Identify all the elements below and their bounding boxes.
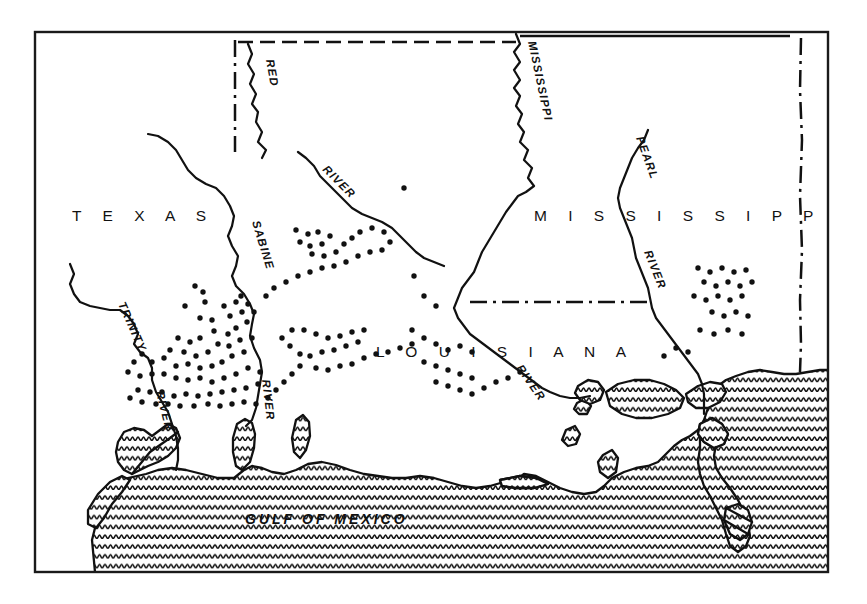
occurrence-dot — [737, 283, 742, 288]
occurrence-dot — [309, 251, 314, 256]
occurrence-dot — [703, 297, 708, 302]
red-river — [248, 44, 266, 158]
occurrence-dot — [243, 385, 248, 390]
occurrence-dot — [305, 231, 310, 236]
occurrence-dot — [173, 363, 178, 368]
occurrence-dot — [387, 239, 392, 244]
occurrence-dot — [182, 303, 187, 308]
calcasieu-lake-water — [292, 415, 310, 458]
occurrence-dot — [319, 265, 324, 270]
occurrence-dot — [325, 335, 330, 340]
occurrence-dot — [273, 387, 278, 392]
gulf-of-mexico-label: GULF OF MEXICO — [245, 511, 408, 527]
texas-label: T E X A S — [72, 207, 215, 224]
occurrence-dot — [255, 381, 260, 386]
occurrence-dot — [343, 343, 348, 348]
occurrence-dot — [333, 249, 338, 254]
occurrence-dot — [331, 263, 336, 268]
occurrence-dot — [202, 299, 207, 304]
occurrence-dot — [139, 399, 144, 404]
occurrence-dot — [297, 351, 302, 356]
occurrence-dot — [177, 403, 182, 408]
occurrence-dot — [221, 303, 226, 308]
sabine-river-label: SABINE — [250, 219, 276, 271]
sabine-river — [148, 134, 262, 426]
mississippi-label: M I S S I S S I P P I — [534, 207, 847, 224]
occurrence-dot — [289, 371, 294, 376]
occurrence-dot — [433, 341, 438, 346]
occurrence-dot — [349, 235, 354, 240]
occurrence-dot — [401, 185, 406, 190]
occurrence-dot — [739, 293, 744, 298]
occurrence-dot — [219, 389, 224, 394]
occurrence-dot — [411, 273, 416, 278]
occurrence-dot — [433, 379, 438, 384]
occurrence-dot — [241, 349, 246, 354]
occurrence-dot — [307, 243, 312, 248]
occurrence-dot — [409, 341, 414, 346]
occurrence-dot — [457, 371, 462, 376]
occurrence-dot — [707, 269, 712, 274]
occurrence-dot — [139, 351, 144, 356]
occurrence-dot — [287, 343, 292, 348]
occurrence-dot — [307, 269, 312, 274]
occurrence-dot — [337, 363, 342, 368]
occurrence-dot — [293, 227, 298, 232]
occurrence-dot — [731, 269, 736, 274]
occurrence-dot — [239, 309, 244, 314]
occurrence-dot — [244, 319, 249, 324]
occurrence-dot — [263, 293, 268, 298]
louisiana-label: L O U I S I A N A — [376, 343, 635, 360]
occurrence-dot — [715, 293, 720, 298]
occurrence-dot — [743, 267, 748, 272]
occurrence-dot — [385, 349, 390, 354]
occurrence-dot — [197, 315, 202, 320]
occurrence-dot — [421, 335, 426, 340]
occurrence-dot — [245, 301, 250, 306]
occurrence-dot — [373, 351, 378, 356]
occurrence-dot — [226, 343, 231, 348]
occurrence-dot — [433, 363, 438, 368]
occurrence-dot — [445, 383, 450, 388]
occurrence-dot — [733, 309, 738, 314]
occurrence-dot — [361, 355, 366, 360]
occurrence-dot — [225, 331, 230, 336]
occurrence-dot — [367, 249, 372, 254]
occurrence-dot — [313, 331, 318, 336]
occurrence-dot — [725, 327, 730, 332]
occurrence-dot — [469, 375, 474, 380]
occurrence-dot — [265, 395, 270, 400]
occurrence-dot — [321, 253, 326, 258]
occurrence-dot — [173, 375, 178, 380]
occurrence-dot — [301, 327, 306, 332]
occurrence-dot — [233, 371, 238, 376]
occurrence-dot — [271, 285, 276, 290]
occurrence-dot — [349, 329, 354, 334]
occurrence-dot — [505, 375, 510, 380]
occurrence-dot — [283, 279, 288, 284]
occurrence-dot — [517, 369, 522, 374]
occurrence-dot — [197, 365, 202, 370]
occurrence-dot — [697, 327, 702, 332]
mississippi-alabama-border — [800, 38, 802, 372]
mississippi-river-suffix-label: RIVER — [514, 362, 547, 403]
occurrence-dot — [200, 289, 205, 294]
occurrence-dot — [165, 401, 170, 406]
occurrence-dot — [711, 331, 716, 336]
occurrence-dot — [233, 299, 238, 304]
occurrence-dot — [469, 349, 474, 354]
occurrence-dot — [749, 279, 754, 284]
occurrence-dot — [209, 379, 214, 384]
occurrence-dot — [147, 389, 152, 394]
occurrence-dot — [217, 403, 222, 408]
occurrence-dot — [191, 403, 196, 408]
occurrence-dot — [193, 353, 198, 358]
occurrence-dot — [251, 309, 256, 314]
occurrence-dot — [481, 385, 486, 390]
occurrence-dot — [187, 339, 192, 344]
occurrence-dot — [253, 401, 258, 406]
occurrence-dot — [229, 353, 234, 358]
occurrence-dot — [319, 349, 324, 354]
occurrence-dot — [185, 361, 190, 366]
trinity-river-label: TRINITY — [116, 300, 149, 354]
